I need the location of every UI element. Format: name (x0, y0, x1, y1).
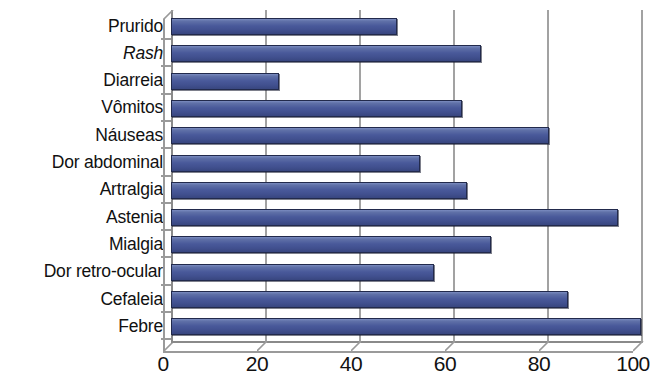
bar (171, 236, 491, 253)
gridline-foot-80 (539, 341, 550, 352)
category-tick (161, 93, 171, 95)
bar (171, 182, 467, 199)
x-axis-line (171, 341, 641, 343)
bar (171, 291, 568, 308)
bar (171, 18, 397, 35)
category-label: Vômitos (0, 98, 163, 117)
category-tick (161, 256, 171, 258)
bar (171, 155, 420, 172)
gridline-foot-100 (633, 341, 644, 352)
category-label: Náuseas (0, 126, 163, 145)
category-tick (161, 311, 171, 313)
gridline-100 (641, 10, 643, 343)
category-tick (161, 65, 171, 67)
gridline-foot-20 (257, 341, 268, 352)
category-label: Rash (0, 44, 163, 63)
category-tick (161, 175, 171, 177)
x-tick-label: 40 (340, 352, 362, 376)
bar (171, 45, 481, 62)
category-tick (161, 284, 171, 286)
bar (171, 127, 549, 144)
x-tick-label: 20 (246, 352, 268, 376)
y-axis-labels: PruridoRashDiarreiaVômitosNáuseasDor abd… (0, 0, 163, 385)
category-tick (161, 147, 171, 149)
x-tick-label: 0 (157, 352, 168, 376)
category-tick (161, 120, 171, 122)
category-label: Febre (0, 317, 163, 336)
category-tick (161, 202, 171, 204)
category-label: Dor retro-ocular (0, 262, 163, 281)
category-label: Astenia (0, 208, 163, 227)
x-tick-label: 100 (616, 352, 650, 376)
x-tick-label: 80 (528, 352, 550, 376)
plot-area (171, 10, 641, 343)
category-tick (161, 229, 171, 231)
gridline-foot-60 (445, 341, 456, 352)
category-label: Artralgia (0, 180, 163, 199)
bar (171, 100, 462, 117)
x-axis-tick-labels: 020406080100 (0, 352, 648, 385)
bar (171, 73, 279, 90)
category-label: Diarreia (0, 71, 163, 90)
y-axis-line-front (163, 19, 165, 352)
bar (171, 264, 434, 281)
category-label: Mialgia (0, 235, 163, 254)
bar (171, 318, 641, 335)
category-label: Prurido (0, 17, 163, 36)
x-tick-label: 60 (434, 352, 456, 376)
bar (171, 209, 618, 226)
category-label: Dor abdominal (0, 153, 163, 172)
category-tick (161, 38, 171, 40)
category-tick (161, 338, 171, 340)
category-label: Cefaleia (0, 290, 163, 309)
gridline-foot-40 (351, 341, 362, 352)
